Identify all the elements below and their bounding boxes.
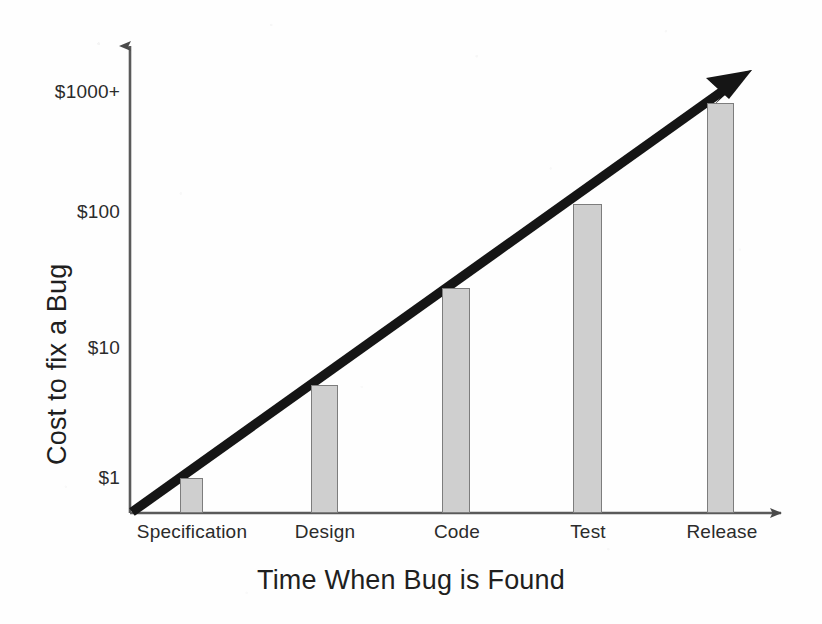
- bar-release: [707, 103, 734, 513]
- y-axis-title: Cost to fix a Bug: [42, 264, 73, 466]
- x-tick-label-specification: Specification: [137, 521, 247, 543]
- x-tick-label-code: Code: [434, 521, 480, 543]
- bar-specification: [180, 478, 203, 513]
- bar-test: [573, 204, 602, 513]
- x-axis-title: Time When Bug is Found: [0, 565, 822, 596]
- y-tick-label-1: $1: [0, 467, 120, 489]
- y-tick-label-100: $100: [0, 201, 120, 223]
- bar-code: [442, 288, 470, 513]
- x-tick-label-release: Release: [686, 521, 757, 543]
- x-tick-label-design: Design: [295, 521, 355, 543]
- cost-to-fix-bug-chart: $1000+ $100 $10 $1 Specification Design …: [0, 0, 822, 624]
- x-tick-label-test: Test: [570, 521, 606, 543]
- bar-design: [311, 385, 338, 513]
- y-tick-label-1000: $1000+: [0, 81, 120, 103]
